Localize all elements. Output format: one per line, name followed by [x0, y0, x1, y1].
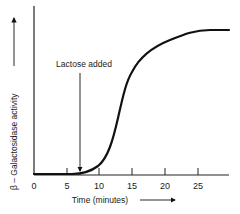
tick-label: 5 — [64, 181, 69, 191]
tick-label: 25 — [193, 181, 203, 191]
tick-label: 15 — [127, 181, 137, 191]
chart: 0 5 10 15 20 25 Lactose added Time (minu… — [0, 0, 240, 214]
tick-label: 0 — [31, 181, 36, 191]
y-axis-label: β – Galactosidase activity — [9, 93, 19, 190]
x-axis-label: Time (minutes) — [72, 195, 129, 205]
activity-curve — [34, 30, 229, 174]
x-tick-labels: 0 5 10 15 20 25 — [31, 181, 203, 191]
annotation-label: Lactose added — [56, 59, 112, 69]
tick-label: 20 — [160, 181, 170, 191]
tick-label: 10 — [94, 181, 104, 191]
